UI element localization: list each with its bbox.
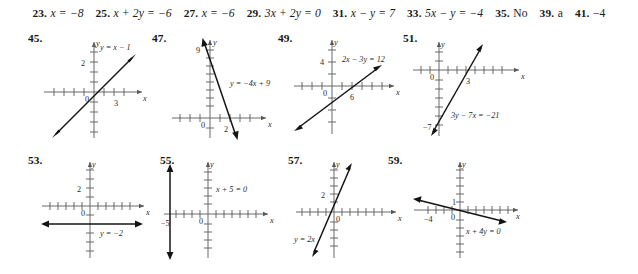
x-axis-label: x [520,72,525,81]
answer-number: 25. [96,7,111,19]
x-axis-arrow [514,68,519,72]
y-axis-arrow [208,40,212,45]
plot-arrow-end [135,221,143,228]
y-tick-label: 9 [196,46,200,55]
answer-value: 5x − y = −4 [425,7,483,20]
origin-label: 0 [451,213,455,222]
y-axis-label: y [335,160,340,169]
x-axis-arrow [389,84,394,88]
x-axis-arrow [261,116,266,120]
x-tick-label: 2 [224,125,228,134]
y-axis-label: y [209,160,214,169]
equation-label: y = 2x [293,235,315,244]
y-tick-label: 1 [452,198,456,207]
graph-cell-47: 47. [152,30,277,140]
graph-cell-59: 59. [388,152,538,264]
plot-arrow-start [167,164,174,172]
plot-arrow-start [202,38,208,47]
answer-key-page: 23. x = −8 25. x + 2y = −6 27. x = −6 29… [0,0,638,274]
answer-value: x + 2y = −6 [114,7,172,20]
plot-arrow-end [167,252,174,260]
y-axis-label: y [461,160,466,169]
x-axis-arrow [263,212,268,216]
graph-cell-53: 53. [28,152,153,264]
answer-value: a [558,7,563,20]
x-tick-label: 3 [466,77,470,86]
answer-item-25: 25. x + 2y = −6 [96,7,172,20]
plot-line [298,68,378,128]
graph-number-47: 47. [152,32,166,44]
answer-item-23: 23. x = −8 [33,7,84,20]
plot-arrow-end [498,218,507,225]
plot-arrow-end [128,54,137,63]
equation-label: y = −4x + 9 [229,79,270,88]
equation-label: 2x − 3y = 12 [342,55,385,64]
x-axis-arrow [139,204,144,208]
y-tick-label: 2 [77,185,81,194]
graph-plot-59: x y 0 −4 1 x + 4y = 0 [412,158,542,262]
x-axis-label: x [267,120,272,129]
equation-label: x + 4y = 0 [465,227,501,236]
answer-value: x = −6 [202,7,235,20]
equation-label: y = −2 [99,229,123,238]
plot-arrow-end [232,131,238,140]
graph-cell-49: 49. [278,30,403,140]
answer-value: −4 [593,7,606,20]
equation-label: y = x − 1 [99,43,131,52]
y-tick-label: 2 [321,191,325,200]
plot-arrow-start [413,196,422,203]
y-axis-label: y [91,160,96,169]
answer-number: 41. [575,7,590,19]
plot-arrow-end [476,44,483,52]
answer-number: 23. [33,7,48,19]
y-axis-label: y [333,38,338,47]
equation-label: x + 5 = 0 [215,185,247,194]
plot-line [314,168,350,252]
answer-value: x − y = 7 [351,7,395,20]
graph-plot-49: x y 0 6 4 2x − 3y = 12 [290,36,405,140]
answer-item-35: 35. No [495,7,527,20]
x-tick-label: −5 [161,219,170,228]
x-axis-label: x [395,88,400,97]
y-axis-label: y [212,38,217,47]
graph-plot-53: x y 0 2 y = −2 [36,158,154,262]
equation-label: 3y − 7x = −21 [450,111,499,120]
graph-cell-45: 45. [28,30,148,140]
graph-cell-55: 55. [160,152,285,264]
y-tick-label: 2 [81,59,85,68]
answer-item-29: 29. 3x + 2y = 0 [247,7,321,20]
graph-cell-51: 51. [403,30,538,140]
y-tick-label: 4 [320,58,324,67]
origin-label: 0 [81,209,85,218]
x-axis-label: x [145,208,150,217]
answer-item-27: 27. x = −6 [184,7,235,20]
graph-plot-45: x y 0 3 2 y = x − 1 [38,38,150,140]
plot-arrow-end [345,163,352,171]
y-tick-label: −7 [423,123,432,132]
answer-number: 33. [407,7,422,19]
origin-label: 0 [85,95,89,104]
answer-number: 31. [333,7,348,19]
graph-plot-47: x y 0 2 9 y = −4x + 9 [166,36,278,142]
graph-plot-55: x y 0 −5 x + 5 = 0 [160,158,282,262]
origin-label: 0 [430,73,434,82]
y-axis-label: y [440,40,445,49]
answer-number: 39. [540,7,555,19]
graph-number-59: 59. [388,154,402,166]
answer-item-39: 39. a [540,7,563,20]
plot-arrow-start [41,221,49,228]
answer-number: 27. [184,7,199,19]
origin-label: 0 [323,89,327,98]
answer-value: 3x + 2y = 0 [265,7,321,20]
origin-label: 0 [201,121,205,130]
answer-value: x = −8 [51,7,84,20]
origin-label: 0 [336,215,340,224]
x-tick-label: −4 [424,215,433,224]
plot-arrow-start [52,130,61,139]
x-axis-label: x [142,94,147,103]
x-axis-arrow [137,90,142,94]
x-axis-label: x [515,212,520,221]
plot-arrow-start [312,249,319,257]
plot-arrow-start [431,128,438,136]
answer-item-33: 33. 5x − y = −4 [407,7,483,20]
